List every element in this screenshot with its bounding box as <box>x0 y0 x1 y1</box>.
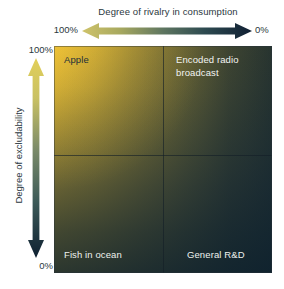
quadrant-label-top-left: Apple <box>64 54 89 67</box>
quadrant-divider-vertical <box>163 46 164 273</box>
y-axis-tick-top: 100% <box>8 44 53 55</box>
y-axis-tick-bottom: 0% <box>14 260 53 271</box>
vertical-double-arrow-icon <box>26 58 46 258</box>
x-axis-tick-left: 100% <box>44 24 78 35</box>
quadrant-label-bottom-left: Fish in ocean <box>64 249 122 262</box>
goods-typology-matrix-figure: Degree of rivalry in consumption 100% 0% <box>0 0 284 289</box>
quadrant-label-top-right: Encoded radio broadcast <box>176 54 262 79</box>
x-axis-row: 100% 0% <box>0 21 284 41</box>
matrix-plot-area: Apple Encoded radio broadcast Fish in oc… <box>54 46 272 273</box>
quadrant-label-bottom-right: General R&D <box>187 249 245 262</box>
x-axis-tick-right: 0% <box>255 24 283 35</box>
horizontal-double-arrow-icon <box>82 21 252 41</box>
y-axis-title: Degree of excludability <box>13 81 24 231</box>
x-axis-title: Degree of rivalry in consumption <box>60 6 276 17</box>
quadrant-divider-horizontal <box>54 155 272 156</box>
